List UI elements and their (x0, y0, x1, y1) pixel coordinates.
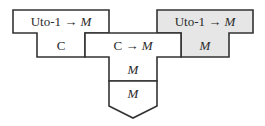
middle-stem-label: M (128, 63, 139, 76)
left-piece-bottom-label: C (57, 39, 66, 52)
middle-top-prefix: C → (113, 38, 141, 53)
left-top-type: M (81, 14, 92, 29)
right-piece-bottom-label: M (200, 39, 211, 52)
middle-piece-top-label: C → M (113, 39, 152, 52)
left-piece-top-label: Uto-1 → M (31, 15, 92, 28)
right-piece-top-label: Uto-1 → M (175, 15, 236, 28)
middle-top-type: M (142, 38, 153, 53)
left-top-prefix: Uto-1 → (31, 14, 81, 29)
right-top-prefix: Uto-1 → (175, 14, 225, 29)
right-top-type: M (225, 14, 236, 29)
bottom-piece-label: M (128, 87, 139, 100)
